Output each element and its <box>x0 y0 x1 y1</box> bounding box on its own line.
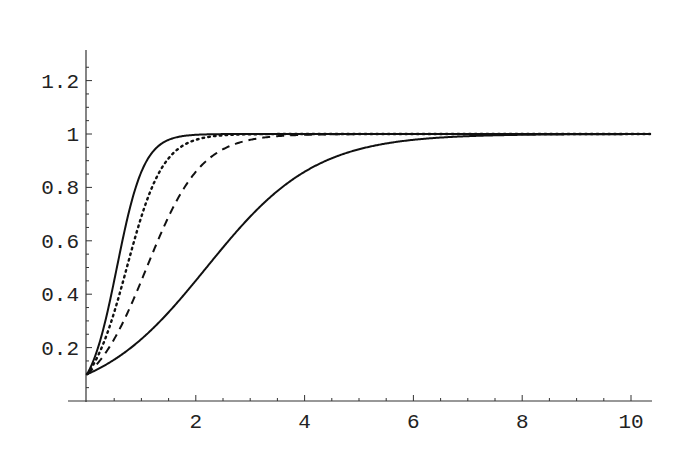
y-tick-label: 1.2 <box>41 71 79 94</box>
x-tick-label: 6 <box>407 411 420 434</box>
y-tick-label: 0.8 <box>41 177 79 200</box>
x-tick-label: 8 <box>516 411 529 434</box>
x-tick-label: 4 <box>298 411 311 434</box>
x-tick-label: 10 <box>618 411 643 434</box>
curve-2-dotted-line <box>87 134 650 374</box>
curve-4-solid-line <box>87 134 650 374</box>
x-tick-label: 2 <box>189 411 202 434</box>
y-axis <box>86 50 92 402</box>
y-tick-labels: 0.20.40.60.811.2 <box>41 71 79 361</box>
chart: 246810 0.20.40.60.811.2 <box>0 0 690 453</box>
y-tick-label: 1 <box>66 124 79 147</box>
plot-curves <box>87 134 650 374</box>
curve-1-solid-line <box>87 134 650 374</box>
y-tick-label: 0.2 <box>41 338 79 361</box>
curve-3-dashed-line <box>87 134 650 374</box>
y-tick-label: 0.6 <box>41 231 79 254</box>
x-axis <box>68 395 652 401</box>
y-tick-label: 0.4 <box>41 284 79 307</box>
x-tick-labels: 246810 <box>189 411 643 434</box>
